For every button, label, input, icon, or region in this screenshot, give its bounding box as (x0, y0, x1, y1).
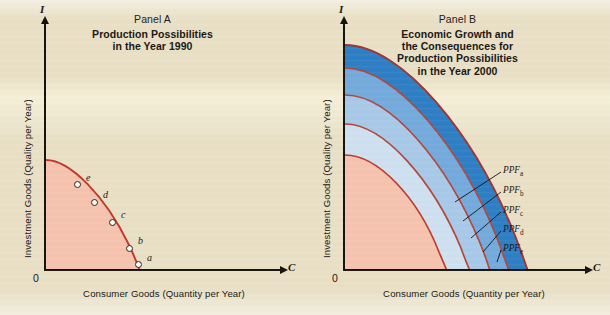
panel-a-y-axis-letter: I (40, 3, 44, 15)
panel-b-x-axis (343, 269, 585, 271)
panel-b-y-axis-arrow (340, 16, 348, 24)
panel-b-origin: 0 (332, 272, 338, 284)
ppf-point-d-label: d (103, 189, 108, 200)
panel-a-x-axis-letter: C (288, 261, 295, 273)
panel-b-y-axis (343, 24, 345, 271)
figure-container: Panel A Production Possibilities in the … (0, 0, 610, 315)
ppf-e-label-text: PPF (503, 243, 520, 253)
panel-a-x-axis (44, 269, 280, 271)
panel-b-x-axis-letter: C (593, 261, 600, 273)
ppf-a-label-text: PPF (503, 165, 520, 175)
ppf-b-label-sub: b (520, 190, 524, 198)
panel-a-x-axis-arrow (280, 266, 288, 274)
panel-a-x-axis-label: Consumer Goods (Quantity per Year) (44, 288, 284, 299)
ppf-d-label-text: PPF (503, 224, 520, 234)
panel-a-y-axis-arrow (41, 16, 49, 24)
ppf-c-label-text: PPF (503, 205, 520, 215)
panel-a-y-axis-label: Investment Goods (Quality per Year) (22, 99, 33, 258)
ppf-c-label-sub: c (520, 210, 523, 218)
panel-a-origin: 0 (33, 272, 39, 284)
panel-b-graphic (305, 0, 610, 315)
ppf-e-label: PPFe (503, 243, 523, 256)
ppf-a-label-sub: a (520, 170, 523, 178)
ppf-point-c[interactable] (109, 219, 116, 226)
ppf-a-label: PPFa (503, 165, 523, 178)
ppf-point-a[interactable] (135, 261, 142, 268)
ppf-e-label-sub: e (520, 248, 523, 256)
ppf-d-label: PPFd (503, 224, 524, 237)
ppf-point-b[interactable] (126, 245, 133, 252)
panel-b-x-axis-label: Consumer Goods (Quantity per Year) (343, 288, 585, 299)
ppf-b-label: PPFb (503, 185, 524, 198)
ppf-point-a-label: a (147, 252, 152, 263)
panel-a-y-axis (44, 24, 46, 271)
ppf-d-label-sub: d (520, 229, 524, 237)
panel-b: Panel B Economic Growth and the Conseque… (305, 0, 610, 315)
panel-b-x-axis-arrow (585, 266, 593, 274)
panel-b-y-axis-letter: I (339, 3, 343, 15)
ppf-point-e-label: e (86, 172, 90, 183)
ppf-b-label-text: PPF (503, 185, 520, 195)
ppf-c-label: PPFc (503, 205, 523, 218)
panel-b-y-axis-label: Investment Goods (Quality per Year) (321, 99, 332, 258)
ppf-point-e[interactable] (74, 181, 81, 188)
ppf-point-c-label: c (121, 209, 125, 220)
panel-a: Panel A Production Possibilities in the … (0, 0, 305, 315)
ppf-point-b-label: b (138, 235, 143, 246)
ppf-point-d[interactable] (91, 199, 98, 206)
